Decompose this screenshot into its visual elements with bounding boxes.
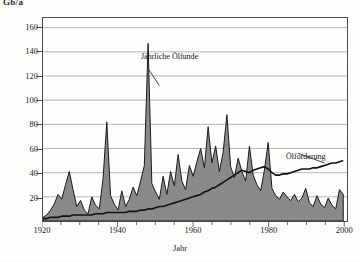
y-tick-label: 20 — [0, 193, 38, 203]
y-tick-mark — [36, 100, 42, 101]
y-tick-mark — [36, 124, 42, 125]
y-tick-mark — [36, 198, 42, 199]
plot-area — [42, 17, 348, 222]
y-tick-mark — [36, 149, 42, 150]
chart-canvas — [43, 18, 347, 221]
y-tick-label: 80 — [0, 119, 38, 129]
y-tick-mark — [36, 27, 42, 28]
x-axis-ticks — [42, 222, 348, 230]
y-tick-mark — [36, 76, 42, 77]
annotation-production: Ölförderung — [286, 152, 326, 161]
y-tick-label: 100 — [0, 95, 38, 105]
y-tick-label: 120 — [0, 71, 38, 81]
y-tick-label: 160 — [0, 22, 38, 32]
y-tick-label: 40 — [0, 168, 38, 178]
annotation-discoveries: Jährliche Ölfunde — [141, 52, 198, 61]
chart-figure: Gb/a 20406080100120140160 19201940196019… — [0, 0, 360, 262]
y-tick-mark — [36, 51, 42, 52]
x-axis-title: Jahr — [0, 243, 360, 253]
y-tick-label: 140 — [0, 46, 38, 56]
y-tick-mark — [36, 173, 42, 174]
y-axis-unit-label: Gb/a — [3, 0, 23, 7]
y-tick-label: 60 — [0, 144, 38, 154]
